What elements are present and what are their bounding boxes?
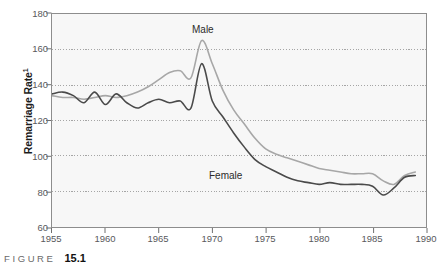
y-tick-60: 60	[14, 223, 48, 232]
y-tick-180: 180	[14, 9, 48, 18]
y-tick-140: 140	[14, 80, 48, 89]
y-tick-100: 100	[14, 152, 48, 161]
x-tick-1990: 1990	[404, 233, 445, 244]
caption-number: 15.1	[65, 252, 86, 264]
chart-svg	[52, 14, 426, 227]
x-tick-1955: 1955	[29, 233, 73, 244]
series-label-male: Male	[192, 24, 214, 35]
x-tick-1985: 1985	[350, 233, 394, 244]
series-line-male	[52, 40, 415, 184]
figure-container: Remarriage Rate1 180 160 140 120 100 80 …	[0, 0, 445, 265]
caption-word: FIGURE	[4, 253, 56, 264]
x-tick-1960: 1960	[83, 233, 127, 244]
plot-area	[51, 13, 427, 228]
series-label-female: Female	[209, 170, 242, 181]
x-tick-1980: 1980	[297, 233, 341, 244]
y-tick-120: 120	[14, 116, 48, 125]
y-axis-tick-labels: 180 160 140 120 100 80 60	[8, 0, 48, 265]
figure-caption: FIGURE15.1	[4, 252, 86, 264]
y-tick-160: 160	[14, 44, 48, 53]
x-tick-1970: 1970	[190, 233, 234, 244]
x-tick-1975: 1975	[243, 233, 287, 244]
y-tick-80: 80	[14, 188, 48, 197]
x-tick-1965: 1965	[136, 233, 180, 244]
